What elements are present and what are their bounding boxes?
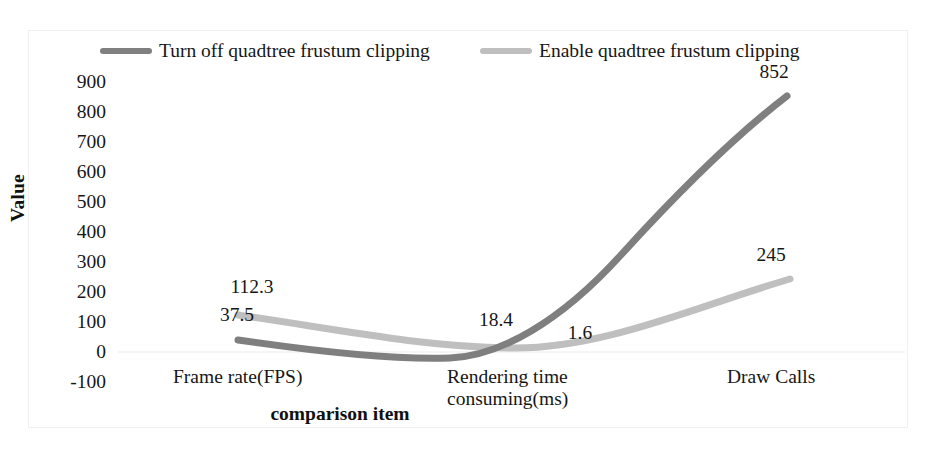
- y-axis-tick-labels: 900 800 700 600 500 400 300 200 100 0 -1…: [44, 0, 106, 457]
- y-tick-200: 200: [44, 282, 106, 302]
- data-label-series1-draw-calls: 245: [756, 245, 785, 265]
- data-label-series0-frame-rate: 37.5: [220, 305, 254, 325]
- y-axis-title: Value: [7, 174, 29, 222]
- x-axis-title: comparison item: [270, 403, 409, 425]
- y-tick-600: 600: [44, 162, 106, 182]
- data-label-series0-rendering-time: 18.4: [479, 310, 513, 330]
- y-tick-0: 0: [44, 342, 106, 362]
- x-category-frame-rate: Frame rate(FPS): [173, 366, 302, 388]
- y-tick-700: 700: [44, 132, 106, 152]
- legend-item-enable-quadtree-frustum-clipping[interactable]: Enable quadtree frustum clipping: [480, 34, 799, 68]
- data-label-series1-frame-rate: 112.3: [230, 277, 273, 297]
- legend-item-turn-off-quadtree-frustum-clipping[interactable]: Turn off quadtree frustum clipping: [100, 34, 430, 68]
- legend-swatch-series-0: [100, 48, 152, 54]
- y-tick-300: 300: [44, 252, 106, 272]
- x-category-draw-calls: Draw Calls: [727, 366, 815, 388]
- y-tick-800: 800: [44, 102, 106, 122]
- legend-label-series-1: Enable quadtree frustum clipping: [539, 41, 799, 61]
- line-chart: Turn off quadtree frustum clipping Enabl…: [0, 0, 948, 457]
- y-tick-500: 500: [44, 192, 106, 212]
- data-label-series1-rendering-time: 1.6: [568, 323, 592, 343]
- data-label-series0-draw-calls: 852: [759, 62, 788, 82]
- y-tick-neg100: -100: [44, 372, 106, 392]
- legend-swatch-series-1: [480, 48, 532, 54]
- x-category-rendering-time: Rendering time consuming(ms): [447, 366, 568, 410]
- y-tick-400: 400: [44, 222, 106, 242]
- y-tick-900: 900: [44, 72, 106, 92]
- y-tick-100: 100: [44, 312, 106, 332]
- legend-label-series-0: Turn off quadtree frustum clipping: [159, 41, 430, 61]
